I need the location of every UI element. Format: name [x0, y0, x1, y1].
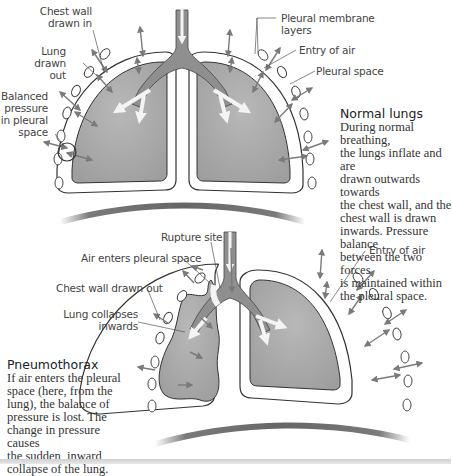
label-chest-wall-drawn-in: Chest wall drawn in: [36, 5, 92, 29]
label-entry-of-air-top: Entry of air: [299, 44, 355, 56]
label-pleural-space: Pleural space: [316, 65, 384, 77]
normal-lungs-diagram: [44, 8, 328, 222]
label-chest-wall-drawn-out: Chest wall drawn out: [56, 282, 163, 294]
normal-lungs-title: Normal lungs: [340, 106, 423, 121]
label-lung-collapses-inwards: Lung collapses inwards: [60, 308, 138, 332]
pneumothorax-title: Pneumothorax: [7, 357, 98, 372]
normal-lungs-description: During normal breathing, the lungs infla…: [340, 121, 452, 303]
label-entry-of-air-bottom: Entry of air: [369, 244, 425, 256]
label-balanced-pressure: Balanced pressure in pleural space: [0, 90, 48, 138]
label-lung-drawn-out: Lung drawn out: [16, 45, 66, 81]
top-diaphragm: [60, 206, 305, 223]
label-pleural-membrane-layers: Pleural membrane layers: [281, 12, 381, 36]
page-bottom-divider: [0, 459, 451, 464]
bottom-diaphragm: [155, 425, 410, 444]
label-rupture-site: Rupture site: [161, 231, 222, 243]
label-air-enters-pleural-space: Air enters pleural space: [81, 252, 201, 264]
